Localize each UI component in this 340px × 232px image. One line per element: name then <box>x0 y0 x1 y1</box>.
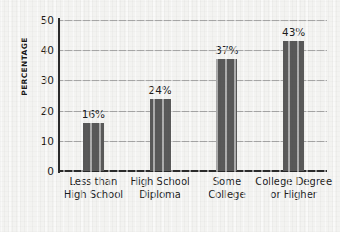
y-axis-tick-label: 30 <box>8 74 54 86</box>
y-axis-tick-label: 10 <box>8 135 54 147</box>
bar-chart: PERCENTAGE 50403020100 16%Less thanHigh … <box>0 0 340 232</box>
x-axis-tick-label: SomeCollege <box>208 176 245 201</box>
plot-area <box>60 20 327 171</box>
x-axis-tick-label-line: Some <box>208 176 245 189</box>
bar[interactable] <box>150 99 171 171</box>
x-axis-tick-label: High SchoolDiploma <box>130 176 189 201</box>
x-axis-tick-label-line: or Higher <box>255 189 332 202</box>
bar-value-label: 43% <box>282 26 305 38</box>
bar-value-label: 24% <box>148 84 171 96</box>
x-axis-tick-label-line: College <box>208 189 245 202</box>
y-axis-tick-label: 40 <box>8 44 54 56</box>
x-axis-tick-label: College Degreeor Higher <box>255 176 332 201</box>
y-axis-tick-label: 50 <box>8 14 54 26</box>
bar[interactable] <box>83 123 104 171</box>
gridline <box>60 20 327 21</box>
x-axis-tick-label: Less thanHigh School <box>64 176 123 201</box>
bar-value-label: 37% <box>215 44 238 56</box>
x-axis-tick-label-line: High School <box>130 176 189 189</box>
bar[interactable] <box>216 59 237 171</box>
bar-value-label: 16% <box>82 108 105 120</box>
y-axis-tick-label: 0 <box>8 165 54 177</box>
x-axis-tick-label-line: Diploma <box>130 189 189 202</box>
y-axis-tick-labels: 50403020100 <box>6 0 54 232</box>
x-axis-tick-label-line: High School <box>64 189 123 202</box>
bar[interactable] <box>283 41 304 171</box>
x-axis-tick-label-line: College Degree <box>255 176 332 189</box>
y-axis-tick-label: 20 <box>8 105 54 117</box>
x-axis-tick-label-line: Less than <box>64 176 123 189</box>
